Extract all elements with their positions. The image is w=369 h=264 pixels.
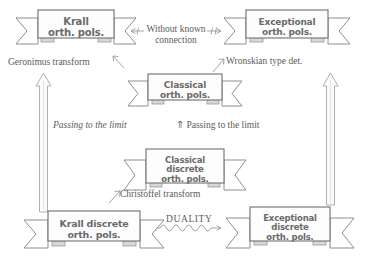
label-passing-to-the-limit-right: ⇑ Passing to the limit xyxy=(176,120,259,131)
node-label: Exceptional discrete orth. pols. xyxy=(224,204,356,260)
label-without-known-connection: Without known connection xyxy=(146,24,206,46)
node-exceptional-discrete: Exceptional discrete orth. pols. xyxy=(224,204,356,252)
label-geronimus-transform: Geronimus transform xyxy=(8,57,90,68)
node-label: Krall discrete orth. pols. xyxy=(22,208,166,258)
label-duality: DUALITY xyxy=(166,214,212,225)
node-classical-discrete: Classical discrete orth. pols. xyxy=(122,146,248,194)
christoffel-arrow-icon xyxy=(109,191,120,203)
no-connection-arrow-right-icon xyxy=(207,28,221,35)
node-label: Krall orth. pols. xyxy=(14,6,138,54)
arrow-up-left-icon xyxy=(36,73,51,212)
node-label: Exceptional orth. pols. xyxy=(222,6,352,54)
diagram-canvas: Krall orth. pols. Exceptional orth. pols… xyxy=(0,0,369,264)
up-double-arrow-icon: ⇑ xyxy=(176,120,184,130)
node-krall-orth: Krall orth. pols. xyxy=(14,6,138,48)
label-christoffel-transform: Christoffel transform xyxy=(120,189,200,200)
label-wronskian-type-det: Wronskian type det. xyxy=(226,56,302,67)
arrow-up-right-icon xyxy=(323,73,338,205)
label-line-2: connection xyxy=(146,35,206,46)
node-label: Classical orth. pols. xyxy=(126,70,244,116)
node-exceptional-orth: Exceptional orth. pols. xyxy=(222,6,352,48)
geronimus-arrow-icon xyxy=(113,56,124,68)
label-passing-to-the-limit-left: Passing to the limit xyxy=(53,120,127,131)
node-krall-discrete: Krall discrete orth. pols. xyxy=(22,208,166,252)
label-text: Passing to the limit xyxy=(186,120,259,130)
node-classical-orth: Classical orth. pols. xyxy=(126,70,244,110)
label-line-1: Without known xyxy=(146,24,206,35)
